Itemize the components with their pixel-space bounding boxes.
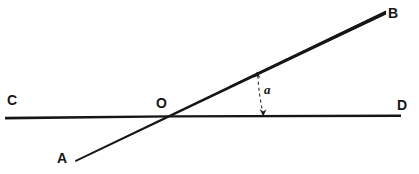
point-label-b: B: [388, 6, 398, 20]
point-label-o: O: [156, 96, 167, 110]
point-label-c: C: [7, 93, 17, 107]
line-CD: [5, 115, 401, 120]
line-AB: [75, 11, 386, 162]
point-label-a: A: [57, 151, 67, 165]
point-label-d: D: [397, 98, 407, 112]
angle-label-a: a: [264, 83, 271, 96]
geometry-figure: C D B A O a: [0, 0, 419, 174]
geometry-canvas: [0, 0, 419, 174]
